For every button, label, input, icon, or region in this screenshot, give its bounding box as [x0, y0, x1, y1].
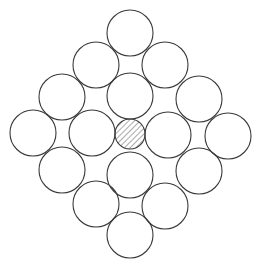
- circle-packing-diagram: [0, 0, 263, 269]
- circle-8: [69, 110, 115, 156]
- circle-16: [107, 212, 153, 258]
- circle-4: [39, 74, 85, 120]
- circle-7: [10, 110, 56, 156]
- circle-3: [142, 42, 188, 88]
- center-hatched-circle: [115, 119, 145, 149]
- circle-9: [145, 112, 191, 158]
- circle-13: [176, 148, 222, 194]
- circle-1: [107, 10, 153, 56]
- circle-11: [39, 147, 85, 193]
- circle-12: [107, 152, 153, 198]
- circle-6: [176, 76, 222, 122]
- circle-5: [107, 73, 153, 119]
